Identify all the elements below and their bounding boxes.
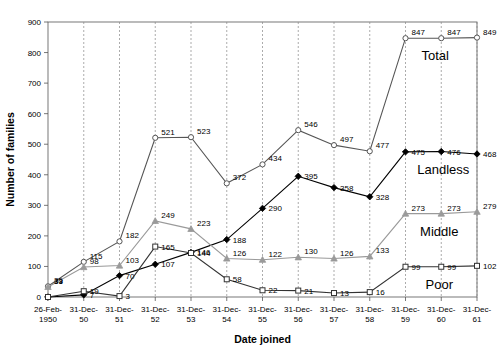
data-label-landless: 328: [376, 193, 390, 202]
y-axis-tick-label: 700: [28, 79, 42, 88]
data-point-poor: [153, 244, 158, 249]
chart-container: 010020030040050060070080090026-Feb-19503…: [0, 0, 498, 347]
data-label-total: 521: [161, 128, 175, 137]
data-label-total: 847: [412, 28, 426, 37]
y-axis-tick-label: 400: [28, 171, 42, 180]
data-point-poor: [81, 289, 86, 294]
data-point-total: [117, 239, 122, 244]
data-label-poor: 99: [447, 263, 456, 272]
data-label-poor: 22: [269, 286, 278, 295]
data-label-poor: 3: [126, 292, 131, 301]
data-point-total: [224, 181, 229, 186]
data-label-landless: 358: [340, 184, 354, 193]
data-point-poor: [117, 294, 122, 299]
data-point-total: [153, 135, 158, 140]
data-label-middle: 98: [90, 257, 99, 266]
data-point-total: [367, 149, 372, 154]
x-axis-tick-label: 31-Dec-: [463, 305, 492, 314]
data-label-total: 497: [340, 135, 354, 144]
data-label-landless: 188: [233, 236, 247, 245]
x-axis-tick-label: 31-Dec-: [141, 305, 170, 314]
data-point-total: [296, 128, 301, 133]
data-label-middle: 223: [197, 219, 211, 228]
data-label-total: 849: [483, 28, 497, 37]
data-point-poor: [189, 251, 194, 256]
y-axis-tick-label: 600: [28, 110, 42, 119]
x-axis-tick-label: 1950: [39, 315, 57, 324]
x-axis-tick-label: 51: [115, 315, 124, 324]
data-point-poor: [260, 288, 265, 293]
data-point-poor: [224, 277, 229, 282]
x-axis-tick-label: 31-Dec-: [248, 305, 277, 314]
data-label-middle: 103: [126, 256, 140, 265]
data-point-total: [260, 162, 265, 167]
x-axis-tick-label: 59: [401, 315, 410, 324]
x-axis-tick-label: 31-Dec-: [284, 305, 313, 314]
x-axis-tick-label: 26-Feb-: [34, 305, 62, 314]
x-axis-tick-label: 61: [473, 315, 482, 324]
data-label-poor: 13: [340, 289, 349, 298]
x-axis-tick-label: 31-Dec-: [70, 305, 99, 314]
data-label-middle: 273: [412, 204, 426, 213]
data-point-total: [403, 36, 408, 41]
x-axis-tick-label: 31-Dec-: [213, 305, 242, 314]
y-axis-tick-label: 0: [37, 293, 42, 302]
data-label-poor: 165: [161, 243, 175, 252]
x-axis-tick-label: 53: [187, 315, 196, 324]
data-label-middle: 126: [233, 249, 247, 258]
y-axis-tick-label: 100: [28, 262, 42, 271]
x-axis-tick-label: 31-Dec-: [356, 305, 385, 314]
x-axis-tick-label: 31-Dec-: [105, 305, 134, 314]
data-point-total: [188, 135, 193, 140]
x-axis-tick-label: 56: [294, 315, 303, 324]
data-point-poor: [475, 263, 480, 268]
data-label-middle: 279: [483, 202, 497, 211]
x-axis-tick-label: 31-Dec-: [427, 305, 456, 314]
data-point-poor: [46, 295, 51, 300]
data-label-middle: 273: [447, 204, 461, 213]
data-label-poor: 19: [90, 287, 99, 296]
data-label-poor: 99: [412, 263, 421, 272]
y-axis-tick-label: 500: [28, 140, 42, 149]
data-label-landless: 290: [269, 204, 283, 213]
x-axis-tick-label: 31-Dec-: [177, 305, 206, 314]
x-axis-tick-label: 31-Dec-: [320, 305, 349, 314]
data-label-landless: 476: [447, 148, 461, 157]
series-label-middle: Middle: [420, 224, 458, 239]
x-axis-tick-label: 57: [330, 315, 339, 324]
x-axis-tick-label: 31-Dec-: [391, 305, 420, 314]
data-label-landless: 475: [412, 148, 426, 157]
data-label-middle: 33: [54, 277, 63, 286]
data-label-total: 546: [304, 120, 318, 129]
data-point-poor: [332, 291, 337, 296]
y-axis-tick-label: 800: [28, 49, 42, 58]
data-point-poor: [403, 264, 408, 269]
series-label-landless: Landless: [417, 162, 470, 177]
data-label-landless: 107: [161, 260, 175, 269]
y-axis-title: Number of families: [4, 112, 16, 207]
data-label-middle: 133: [376, 246, 390, 255]
data-label-poor: 102: [483, 262, 497, 271]
y-axis-tick-label: 900: [28, 18, 42, 27]
data-label-middle: 126: [340, 249, 354, 258]
data-label-total: 434: [269, 154, 283, 163]
data-label-middle: 130: [304, 247, 318, 256]
data-label-total: 372: [233, 173, 247, 182]
x-axis-tick-label: 58: [365, 315, 374, 324]
data-point-poor: [296, 288, 301, 293]
data-label-total: 523: [197, 127, 211, 136]
y-axis-tick-label: 300: [28, 201, 42, 210]
data-label-landless: 468: [483, 150, 497, 159]
data-point-total: [474, 35, 479, 40]
x-axis-tick-label: 54: [222, 315, 231, 324]
data-label-poor: 16: [376, 288, 385, 297]
x-axis-tick-label: 60: [437, 315, 446, 324]
data-point-total: [439, 36, 444, 41]
data-label-poor: 21: [304, 287, 313, 296]
data-label-total: 182: [126, 231, 140, 240]
data-label-total: 847: [447, 28, 461, 37]
x-axis-tick-label: 52: [151, 315, 160, 324]
series-label-poor: Poor: [426, 277, 454, 292]
x-axis-title: Date joined: [234, 333, 291, 345]
data-label-landless: 395: [304, 172, 318, 181]
